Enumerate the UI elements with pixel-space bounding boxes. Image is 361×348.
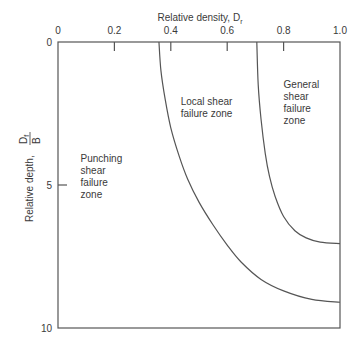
- x-tick-label: 0.8: [277, 25, 291, 36]
- y-tick-label: 5: [46, 180, 52, 191]
- x-axis-title: Relative density, Dr: [158, 12, 244, 25]
- chart: 00.20.40.60.81.0 0510 Relative density, …: [0, 0, 361, 348]
- x-tick-label: 0.6: [220, 25, 234, 36]
- boundary-curve: [257, 42, 340, 244]
- zone-label: Generalshearfailurezone: [284, 79, 320, 126]
- x-tick-label: 1.0: [333, 25, 347, 36]
- x-tick-label: 0.2: [107, 25, 121, 36]
- zone-label: Local shearfailure zone: [181, 96, 233, 119]
- y-axis-title-numerator: Df: [18, 135, 30, 144]
- y-axis-title-text: Relative depth,: [24, 155, 35, 222]
- x-axis-ticks: 00.20.40.60.81.0: [55, 25, 347, 51]
- x-tick-label: 0.4: [164, 25, 178, 36]
- y-tick-label: 10: [41, 323, 53, 334]
- zone-labels: PunchingshearfailurezoneLocal shearfailu…: [81, 79, 320, 200]
- zone-label: Punchingshearfailurezone: [81, 153, 123, 200]
- y-axis-title: Relative depth, Df B: [18, 132, 42, 222]
- y-tick-label: 0: [46, 37, 52, 48]
- y-axis-title-denominator: B: [31, 137, 42, 144]
- x-tick-label: 0: [55, 25, 61, 36]
- y-axis-ticks: 0510: [41, 37, 67, 334]
